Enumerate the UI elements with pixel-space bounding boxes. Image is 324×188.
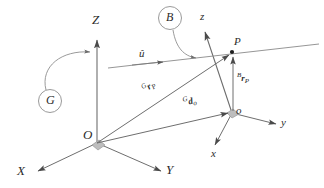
vector-global-r-P <box>97 55 229 143</box>
global-axis-X-label: X <box>17 164 25 177</box>
global-axis-X <box>38 143 97 171</box>
vector-body-r-P-subscript: P <box>245 77 249 85</box>
global-axis-Z-label: Z <box>92 13 99 26</box>
point-P-label: P <box>234 36 241 47</box>
global-axis-Y-label: Y <box>166 163 173 176</box>
body-axis-y-label: y <box>281 117 286 128</box>
body-frame-pointer <box>159 7 197 59</box>
vector-global-d-o <box>97 113 228 143</box>
unit-vector-u-label: û <box>139 48 145 59</box>
body-axis-z-label: z <box>200 11 204 22</box>
global-frame-label: G <box>46 94 55 106</box>
body-axis-x-label: x <box>211 148 216 159</box>
body-axis-x <box>215 113 232 145</box>
point-P-marker <box>230 50 234 54</box>
body-frame-label: B <box>166 11 173 23</box>
global-origin-label: O <box>83 128 92 141</box>
global-axis-Y <box>97 143 161 171</box>
kinematics-diagram: Z X Y O G B z x y o P û GrP BrP Gdo <box>0 0 324 188</box>
body-origin-label: o <box>236 105 242 116</box>
vector-body-r-P-label: BrP <box>237 72 249 85</box>
body-axis-z <box>205 32 232 113</box>
